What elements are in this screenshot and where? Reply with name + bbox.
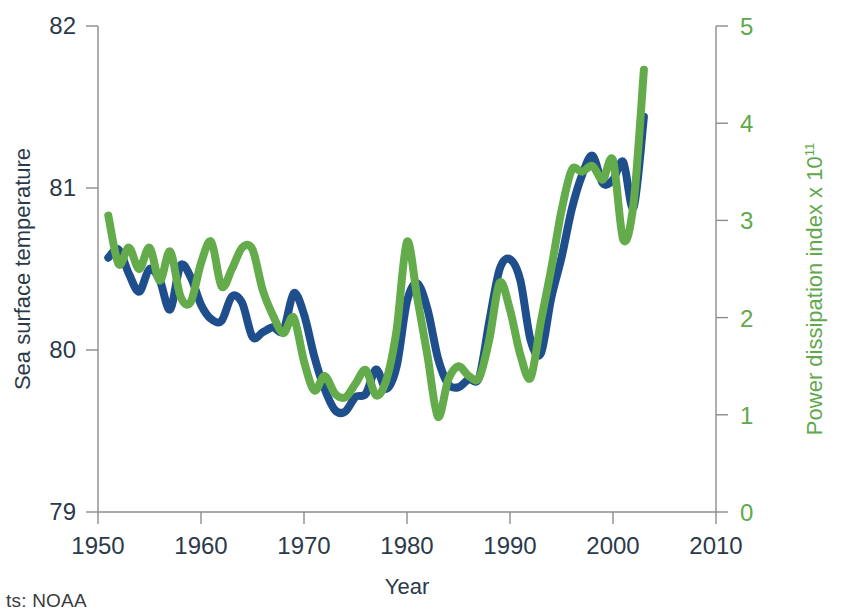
x-tick-label-1950: 1950 — [71, 532, 124, 559]
x-tick-label-2010: 2010 — [689, 532, 742, 559]
y-tick-label-right-4: 4 — [740, 110, 753, 137]
y-tick-label-right-2: 2 — [740, 305, 753, 332]
y-tick-label-left-79: 79 — [49, 498, 76, 525]
y-tick-label-left-81: 81 — [49, 174, 76, 201]
axes-layer — [86, 26, 728, 524]
y-tick-label-left-82: 82 — [49, 12, 76, 39]
x-axis-title: Year — [385, 574, 429, 599]
y-tick-label-right-0: 0 — [740, 499, 753, 526]
y-axis-title-left: Sea surface temperature — [10, 148, 35, 390]
series-line-sst — [108, 117, 644, 413]
x-tick-label-1980: 1980 — [380, 532, 433, 559]
y-axis-title-right: Power dissipation index x 1011 — [802, 143, 827, 435]
x-tick-label-2000: 2000 — [586, 532, 639, 559]
x-tick-label-1960: 1960 — [174, 532, 227, 559]
x-tick-label-1990: 1990 — [483, 532, 536, 559]
source-credit: ts: NOAA — [6, 590, 87, 611]
y-tick-label-right-1: 1 — [740, 402, 753, 429]
y-tick-label-right-5: 5 — [740, 13, 753, 40]
y-tick-label-right-3: 3 — [740, 207, 753, 234]
series-layer — [108, 70, 644, 417]
y-tick-label-left-80: 80 — [49, 336, 76, 363]
x-tick-label-1970: 1970 — [277, 532, 330, 559]
